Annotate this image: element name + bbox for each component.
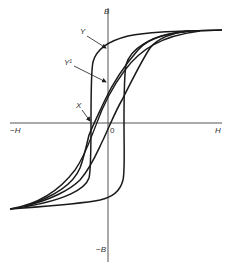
- label-minus-h: −H: [10, 126, 21, 135]
- y-arrow: [87, 36, 106, 48]
- initial-magnetisation-curve: [10, 31, 200, 209]
- label-origin: 0: [110, 126, 115, 135]
- outer-loop-ascending: [10, 30, 222, 209]
- label-b: B: [104, 7, 110, 16]
- label-minus-b: −B: [96, 245, 107, 254]
- hysteresis-diagram: B −B H −H 0 Y Y¹ X: [0, 0, 229, 265]
- label-h: H: [215, 126, 221, 135]
- outer-loop-descending: [10, 30, 222, 209]
- y1-arrow: [74, 66, 106, 82]
- x-arrow: [82, 110, 90, 121]
- label-x: X: [75, 101, 82, 110]
- label-y: Y: [80, 27, 86, 36]
- label-y1: Y¹: [64, 58, 72, 67]
